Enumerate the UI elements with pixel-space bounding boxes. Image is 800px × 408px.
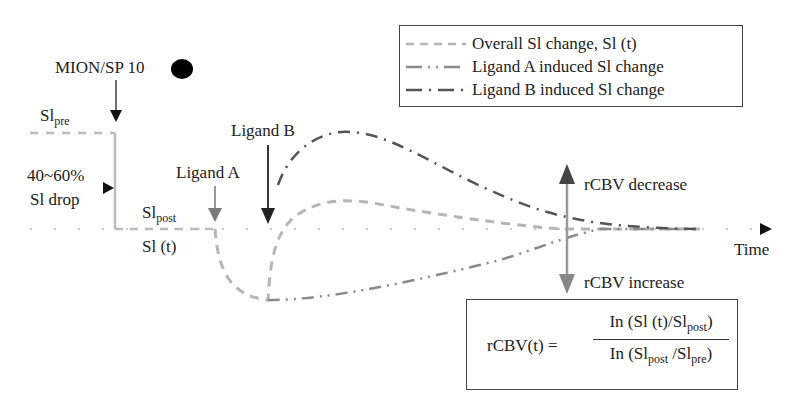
- formula-den-close: ): [707, 344, 713, 363]
- rcbv-decrease-arrowhead-icon: [559, 164, 575, 184]
- formula-num-text: In (Sl (t)/Sl: [609, 312, 686, 331]
- time-axis-arrowhead-icon: [760, 223, 772, 235]
- formula-den-text: In (Sl: [610, 344, 648, 363]
- drop-arrowhead-icon: [103, 182, 114, 194]
- rcbv-formula-box: rCBV(t) = In (Sl (t)/Slpost) In (Slpost …: [466, 299, 738, 390]
- mion-label: MION/SP 10: [55, 59, 145, 76]
- formula-den-sub1: post: [648, 352, 668, 366]
- sl-post-sub: post: [156, 211, 176, 225]
- formula-fraction: In (Sl (t)/Slpost) In (Slpost /Slpre): [593, 312, 729, 367]
- legend-item-overall: Overall Sl change, Sl (t): [400, 32, 742, 56]
- formula-den-sub2: pre: [691, 352, 706, 366]
- sl-pre-sub: pre: [54, 114, 69, 128]
- formula-fraction-bar: [593, 339, 729, 340]
- drop-label-line1: 40~60%: [27, 167, 84, 184]
- legend-dash-dot-swatch-icon: [406, 88, 466, 92]
- legend-label-ligand-b: Ligand B induced Sl change: [472, 80, 665, 100]
- formula-numerator: In (Sl (t)/Slpost): [593, 312, 729, 335]
- drop-label-line2: Sl drop: [30, 191, 80, 208]
- sl-post-label: Slpost: [142, 204, 176, 224]
- rcbv-decrease-label: rCBV decrease: [584, 176, 687, 193]
- legend-label-overall: Overall Sl change, Sl (t): [472, 34, 637, 54]
- formula-denominator: In (Slpost /Slpre): [593, 344, 729, 367]
- formula-num-sub: post: [687, 320, 707, 334]
- sl-pre-label: Slpre: [40, 107, 70, 127]
- ligand-a-arrowhead-icon: [208, 208, 222, 222]
- formula-den-mid: /Sl: [668, 344, 691, 363]
- time-label: Time: [734, 241, 769, 258]
- ligand-b-arrowhead-icon: [261, 208, 275, 224]
- legend-dashed-swatch-icon: [406, 42, 466, 46]
- sl-post-main: Sl: [142, 203, 156, 222]
- legend-dash-dot-dot-swatch-icon: [406, 65, 466, 69]
- sl-t-label: Sl (t): [142, 238, 176, 255]
- legend-item-ligand-a: Ligand A induced Sl change: [400, 55, 742, 79]
- sl-pre-main: Sl: [40, 106, 54, 125]
- ligand-a-label: Ligand A: [176, 164, 240, 181]
- mion-arrowhead-icon: [110, 110, 122, 122]
- formula-num-close: ): [707, 312, 713, 331]
- legend-box: Overall Sl change, Sl (t) Ligand A induc…: [399, 25, 743, 107]
- formula-lhs: rCBV(t) =: [487, 336, 558, 356]
- ink-blot: [171, 59, 193, 79]
- rcbv-increase-arrowhead-icon: [559, 274, 575, 294]
- rcbv-increase-label: rCBV increase: [584, 274, 684, 291]
- ligand-b-label: Ligand B: [231, 122, 295, 139]
- legend-label-ligand-a: Ligand A induced Sl change: [472, 57, 664, 77]
- legend-item-ligand-b: Ligand B induced Sl change: [400, 78, 742, 102]
